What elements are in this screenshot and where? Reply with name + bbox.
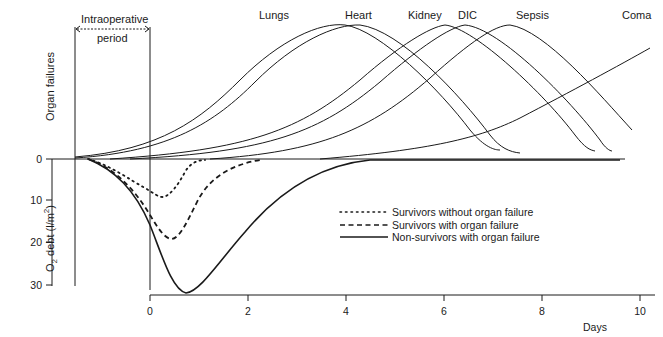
- curve-heart: [75, 25, 520, 158]
- legend-item-survivors-without-of: Survivors without organ failure: [392, 207, 533, 218]
- ytick-30: 30: [22, 280, 42, 291]
- organ-failure-curves: [75, 25, 650, 159]
- organ-failures-axis-label: Organ failures: [44, 52, 56, 121]
- ytick-20: 20: [22, 237, 42, 248]
- xtick-0: 0: [147, 306, 153, 317]
- organ-label-sepsis: Sepsis: [516, 10, 549, 21]
- organ-label-lungs: Lungs: [259, 10, 289, 21]
- xtick-2: 2: [245, 306, 251, 317]
- xtick-10: 10: [634, 306, 646, 317]
- xtick-8: 8: [539, 306, 545, 317]
- curve-lungs: [75, 25, 500, 157]
- legend-samples: [340, 212, 388, 237]
- x-axis-label: Days: [583, 322, 607, 333]
- xtick-4: 4: [343, 306, 349, 317]
- organ-label-coma: Coma: [622, 10, 651, 21]
- organ-label-kidney: Kidney: [408, 10, 442, 21]
- ytick-0: 0: [22, 154, 42, 165]
- intraop-label-line1: Intraoperative: [81, 14, 148, 25]
- figure: Intraoperative period Organ failures O2 …: [0, 0, 663, 337]
- curve-non-survivors: [88, 159, 620, 293]
- o2-debt-curves: [88, 159, 620, 293]
- curve-dic: [130, 25, 612, 159]
- legend-item-survivors-with-of: Survivors with organ failure: [392, 220, 519, 231]
- legend-item-non-survivors: Non-survivors with organ failure: [392, 232, 540, 243]
- curve-kidney: [110, 25, 595, 159]
- chart-canvas: [0, 0, 663, 337]
- ytick-10: 10: [22, 195, 42, 206]
- o2-debt-axis-label: O2 debt (l/m2): [42, 205, 59, 272]
- curve-survivors-without-of: [88, 159, 205, 197]
- xtick-6: 6: [441, 306, 447, 317]
- curve-survivors-with-of: [88, 159, 260, 239]
- organ-label-dic: DIC: [458, 10, 477, 21]
- curve-coma: [320, 48, 650, 159]
- organ-label-heart: Heart: [345, 10, 372, 21]
- intraop-label-line2: period: [97, 33, 128, 44]
